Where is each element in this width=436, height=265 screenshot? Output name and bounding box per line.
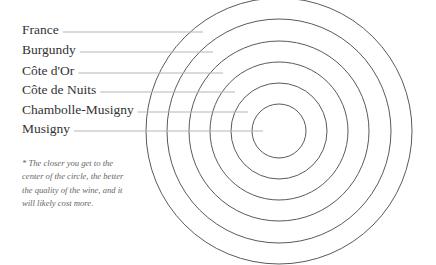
label-france: France [22, 23, 60, 37]
label-chambolle-musigny: Chambolle-Musigny [22, 103, 135, 117]
label-cote-de-nuits: Côte de Nuits [22, 83, 97, 97]
ring-1 [146, 0, 412, 264]
region-circles [146, 0, 412, 264]
label-burgundy: Burgundy [22, 43, 77, 57]
label-musigny: Musigny [22, 122, 71, 136]
label-cote-dor: Côte d'Or [22, 64, 75, 78]
footnote: * The closer you get to the center of th… [22, 157, 134, 211]
